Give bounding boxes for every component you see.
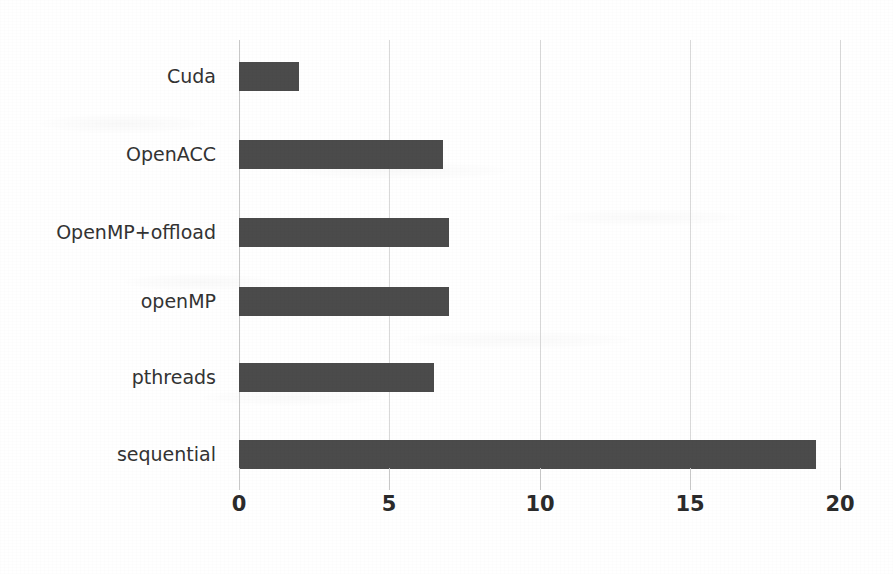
category-label-pthreads: pthreads [0, 366, 228, 388]
xtick-mark-20 [840, 468, 841, 490]
bar-openmp[interactable] [239, 287, 449, 316]
gridline-5 [389, 40, 390, 468]
xtick-mark-5 [389, 468, 390, 490]
gridline-20 [840, 40, 841, 468]
bar-sequential[interactable] [239, 440, 816, 469]
category-label-sequential: sequential [0, 443, 228, 465]
xtick-label-10: 10 [525, 492, 554, 516]
bar-openacc[interactable] [239, 140, 443, 169]
xtick-mark-0 [239, 468, 240, 490]
xtick-mark-15 [690, 468, 691, 490]
category-label-openacc: OpenACC [0, 143, 228, 165]
xtick-label-15: 15 [675, 492, 704, 516]
category-label-openmp-offload: OpenMP+offload [0, 221, 228, 243]
xtick-mark-10 [540, 468, 541, 490]
bar-pthreads[interactable] [239, 363, 434, 392]
bar-openmp-offload[interactable] [239, 218, 449, 247]
gridline-10 [540, 40, 541, 468]
bar-chart: Cuda OpenACC OpenMP+offload openMP pthre… [0, 0, 893, 574]
xtick-label-0: 0 [232, 492, 247, 516]
category-label-openmp: openMP [0, 290, 228, 312]
bar-cuda[interactable] [239, 62, 299, 91]
gridline-15 [690, 40, 691, 468]
plot-area [239, 40, 840, 468]
xtick-label-5: 5 [382, 492, 397, 516]
value-axis-line [239, 40, 240, 468]
category-label-cuda: Cuda [0, 65, 228, 87]
xtick-label-20: 20 [825, 492, 854, 516]
